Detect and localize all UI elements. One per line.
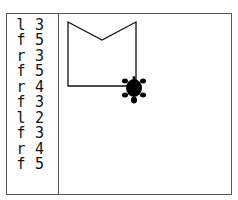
turtle-icon	[122, 76, 146, 104]
turtle-canvas	[0, 0, 238, 200]
turtle-trail	[68, 22, 136, 86]
